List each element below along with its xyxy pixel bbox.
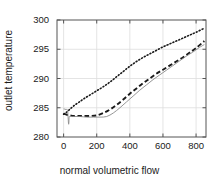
chart-figure: 0200400600800 280285290295300 outlet tem… [0, 0, 219, 188]
series-dotted-upper [64, 28, 205, 114]
gridlines [57, 20, 206, 137]
x-axis-label-text: normal volumetric flow [0, 165, 219, 176]
x-tick-label: 800 [176, 141, 216, 151]
y-axis-label: outlet temperature [2, 0, 16, 140]
data-series-group [64, 28, 205, 124]
y-axis-label-text: outlet temperature [4, 29, 15, 110]
plot-canvas [0, 0, 219, 188]
